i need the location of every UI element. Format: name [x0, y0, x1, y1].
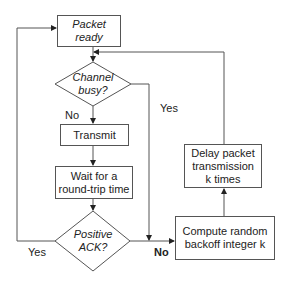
- wait-line2: round-trip time: [59, 183, 130, 196]
- ack-yes-label: Yes: [28, 246, 46, 258]
- edge-ack-yes: [17, 28, 56, 241]
- packet-ready-line1: Packet: [72, 18, 106, 31]
- delay-line1: Delay packet: [191, 147, 255, 160]
- channel-yes-label: Yes: [160, 102, 178, 114]
- channel-busy-line2: busy?: [60, 84, 126, 97]
- positive-ack-line1: Positive: [60, 228, 126, 241]
- packet-ready-line2: ready: [75, 31, 103, 44]
- compute-line2: backoff integer k: [185, 238, 266, 251]
- wait-line1: Wait for a: [71, 170, 118, 183]
- wait-node: Wait for a round-trip time: [55, 166, 133, 199]
- transmit-node: Transmit: [60, 124, 129, 146]
- edge-busy-yes: [131, 84, 149, 240]
- channel-busy-node: Channel busy?: [60, 71, 126, 97]
- positive-ack-line2: ACK?: [60, 241, 126, 254]
- delay-line3: k times: [206, 173, 241, 186]
- transmit-label: Transmit: [73, 129, 115, 142]
- delay-line2: transmission: [192, 160, 254, 173]
- packet-ready-node: Packet ready: [57, 15, 121, 47]
- ack-no-label: No: [154, 246, 169, 258]
- delay-node: Delay packet transmission k times: [184, 144, 262, 188]
- compute-backoff-node: Compute random backoff integer k: [175, 216, 275, 260]
- compute-line1: Compute random: [183, 225, 268, 238]
- channel-busy-line1: Channel: [60, 71, 126, 84]
- positive-ack-node: Positive ACK?: [60, 228, 126, 254]
- channel-no-label: No: [65, 109, 79, 121]
